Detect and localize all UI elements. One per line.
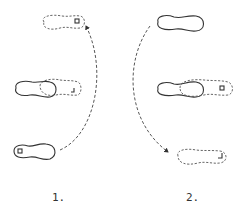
footprint-solid (14, 144, 55, 160)
footprint-solid (16, 81, 56, 97)
step-arrow (133, 26, 168, 152)
footprint-solid (158, 82, 204, 97)
r-mark-icon (75, 19, 79, 23)
footprint-dashed (43, 15, 84, 29)
panel-2 (133, 16, 232, 165)
panel-1 (14, 15, 97, 159)
panel-2-label: 2. (186, 191, 199, 204)
r-mark-icon (18, 149, 22, 153)
r-mark-icon (220, 86, 224, 90)
panel-1-label: 1. (52, 191, 65, 204)
l-mark-icon (218, 153, 222, 158)
footprint-solid (158, 16, 204, 32)
l-mark-icon (71, 88, 74, 92)
footprint-dashed (178, 149, 226, 164)
step-arrow (60, 26, 97, 150)
footstep-diagram (0, 0, 245, 212)
